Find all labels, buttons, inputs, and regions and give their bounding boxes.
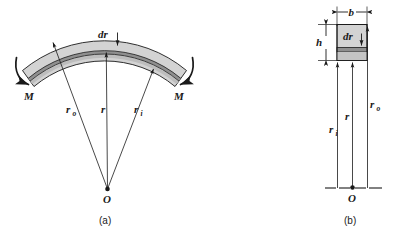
radius-outer-line-a <box>53 43 108 190</box>
radius-inner-line-a <box>108 69 154 189</box>
dr-label-a: dr <box>98 28 109 40</box>
radius-centroid-label-b: r <box>345 110 350 122</box>
radius-inner-label-b: r <box>329 123 334 135</box>
height-label-h: h <box>316 36 322 48</box>
width-label-b: b <box>349 6 355 18</box>
radius-inner-subscript-a: i <box>141 109 144 118</box>
beam-outer-body <box>23 41 187 87</box>
radius-centroid-line-a <box>106 53 107 190</box>
caption-b: (b) <box>344 215 356 226</box>
radius-inner-label-a: r <box>134 103 139 115</box>
origin-point-b <box>350 185 355 190</box>
cross-section-inner-strip <box>337 52 367 61</box>
moment-label-left: M <box>23 90 35 102</box>
moment-label-right: M <box>173 90 185 102</box>
panel-a: dr r o r r i O M M (a) <box>16 28 193 226</box>
origin-point-a <box>105 187 110 192</box>
panel-b: dr b h r i r <box>316 6 382 227</box>
caption-a: (a) <box>99 215 111 226</box>
radius-centroid-label-a: r <box>101 103 106 115</box>
curved-beam-body <box>23 41 187 87</box>
curved-beam-figure: dr r o r r i O M M (a) <box>0 0 415 232</box>
radius-outer-subscript-a: o <box>73 109 77 118</box>
radius-outer-label-a: r <box>66 103 71 115</box>
origin-label-a: O <box>103 193 111 205</box>
radius-inner-subscript-b: i <box>336 129 339 138</box>
radius-outer-subscript-b: o <box>377 104 381 113</box>
cross-section-element-band-dr <box>337 48 367 53</box>
dr-label-b: dr <box>343 30 354 42</box>
figure-container: dr r o r r i O M M (a) <box>0 0 415 232</box>
origin-label-b: O <box>348 192 356 204</box>
radius-outer-label-b: r <box>370 98 375 110</box>
